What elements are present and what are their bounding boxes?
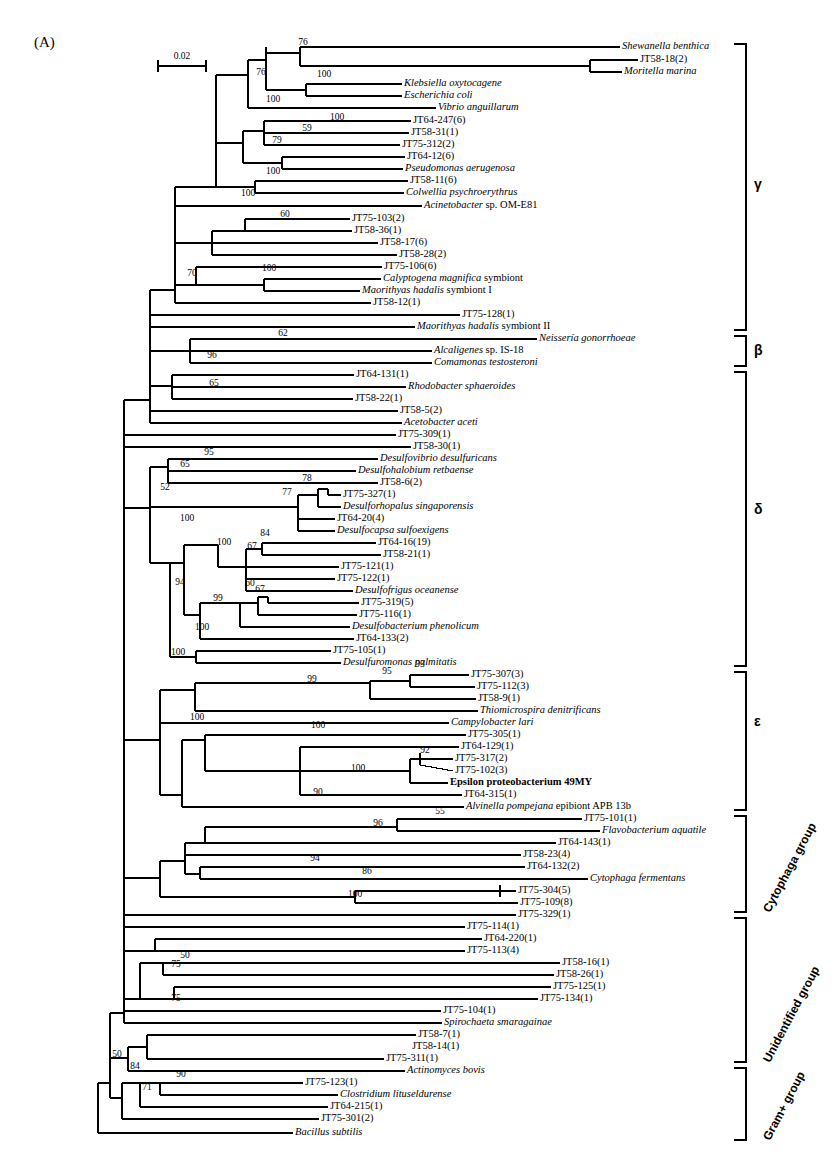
taxon-label: JT64-12(6) <box>407 150 455 162</box>
bootstrap-value: 86 <box>362 866 372 876</box>
bootstrap-value: 100 <box>266 166 281 176</box>
group-bracket-grampos <box>734 1068 746 1140</box>
bootstrap-value: 76 <box>298 37 308 47</box>
taxon-label: JT58-28(2) <box>399 248 447 260</box>
bootstrap-value: 100 <box>217 537 232 547</box>
taxon-label: Cytophaga fermentans <box>590 872 685 883</box>
bootstrap-value: 90 <box>176 1069 186 1079</box>
taxon-label: JT75-112(3) <box>477 680 530 692</box>
bootstrap-value: 84 <box>260 528 270 538</box>
taxon-label: Bacillus subtilis <box>295 1126 362 1137</box>
bootstrap-value: 96 <box>373 818 383 828</box>
bootstrap-value: 75 <box>171 959 181 969</box>
bootstrap-value: 50 <box>112 1049 122 1059</box>
taxon-label: Calyptogena magnifica symbiont <box>383 272 523 283</box>
taxon-label: JT64-132(2) <box>527 860 580 872</box>
bootstrap-value: 60 <box>280 209 290 219</box>
bootstrap-value: 94 <box>310 853 320 863</box>
scale-bar-label: 0.02 <box>174 51 191 61</box>
bootstrap-value: 93 <box>415 659 425 669</box>
bootstrap-value: 100 <box>348 889 363 899</box>
tip-label-group: Shewanella benthicaJT58-18(2)Moritella m… <box>295 40 709 1137</box>
phylogenetic-tree-svg: 0.02 <box>0 0 834 1154</box>
group-bracket-beta <box>734 336 746 366</box>
taxon-label: JT75-311(1) <box>386 1052 439 1064</box>
bootstrap-value: 95 <box>204 447 214 457</box>
group-bracket-gamma <box>734 44 746 330</box>
taxon-label: JT75-123(1) <box>305 1076 358 1088</box>
taxon-label: JT64-215(1) <box>330 1100 383 1112</box>
taxon-label: JT58-30(1) <box>413 440 461 452</box>
bootstrap-value: 100 <box>311 720 326 730</box>
taxon-label: JT64-16(19) <box>378 536 431 548</box>
bootstrap-value: 100 <box>241 188 256 198</box>
taxon-label: Actinomyces bovis <box>406 1064 485 1075</box>
bootstrap-value: 55 <box>435 806 445 816</box>
taxon-label: Desulfofrigus oceanense <box>354 584 459 595</box>
taxon-label: JT75-102(3) <box>455 764 508 776</box>
group-label-gamma: γ <box>754 176 762 192</box>
figure-canvas: (A) 0.02 <box>0 0 834 1154</box>
bootstrap-value: 52 <box>160 482 170 492</box>
bootstrap-value: 92 <box>420 745 430 755</box>
taxon-label: Moritella marina <box>623 65 697 76</box>
taxon-label: JT75-305(1) <box>468 728 521 740</box>
group-bracket-unidentified <box>734 918 746 1062</box>
taxon-label: Desulfuromonas palmitatis <box>342 656 457 667</box>
taxon-label: JT75-319(5) <box>361 596 414 608</box>
taxon-label: Alvinella pompejana epibiont APB 13b <box>465 800 631 811</box>
bootstrap-value: 65 <box>180 459 190 469</box>
taxon-label: Rhodobacter sphaeroides <box>407 380 515 391</box>
taxon-label: JT58-36(1) <box>354 224 402 236</box>
bootstrap-value: 96 <box>207 350 217 360</box>
group-bracket-delta <box>734 372 746 666</box>
bootstrap-value: 70 <box>187 268 197 278</box>
group-label-beta: β <box>754 342 763 358</box>
taxon-label: JT64-20(4) <box>337 512 385 524</box>
taxon-label: Alcaligenes sp. IS-18 <box>433 344 524 355</box>
taxon-label: JT58-11(6) <box>410 174 457 186</box>
bootstrap-value: 84 <box>130 1061 140 1071</box>
taxon-label: JT75-304(5) <box>518 884 571 896</box>
scale-bar <box>158 60 206 72</box>
taxon-label: JT58-23(4) <box>523 848 571 860</box>
taxon-label: Maorithyas hadalis symbiont I <box>361 284 492 295</box>
taxon-label: Flavobacterium aquatile <box>601 824 706 835</box>
taxon-label: Vibrio anguillarum <box>438 101 519 112</box>
group-bracket-group <box>734 44 746 1140</box>
bootstrap-value: 95 <box>382 666 392 676</box>
bootstrap-value: 99 <box>307 674 317 684</box>
taxon-label: JT58-9(1) <box>478 692 520 704</box>
taxon-label: Thiomicrospira denitrificans <box>480 704 601 715</box>
bootstrap-value: 76 <box>256 67 266 77</box>
bootstrap-value: 60 <box>245 578 255 588</box>
group-bracket-epsilon <box>734 672 746 810</box>
taxon-label: JT64-247(6) <box>413 114 466 126</box>
group-label-delta: δ <box>754 501 763 517</box>
taxon-label: Desulfovibrio desulfuricans <box>379 452 497 463</box>
taxon-label: JT75-125(1) <box>553 980 606 992</box>
taxon-label: JT58-5(2) <box>400 404 442 416</box>
taxon-label: Shewanella benthica <box>622 40 709 51</box>
bootstrap-value: 100 <box>195 622 210 632</box>
taxon-label: JT75-113(4) <box>467 944 520 956</box>
taxon-label: JT64-220(1) <box>484 932 537 944</box>
taxon-label: JT58-18(2) <box>640 53 688 65</box>
bootstrap-value: 65 <box>209 378 219 388</box>
taxon-label: JT75-327(1) <box>343 488 396 500</box>
taxon-label: JT75-317(2) <box>455 752 508 764</box>
taxon-label: JT58-12(1) <box>373 296 421 308</box>
taxon-label: JT75-309(1) <box>398 428 451 440</box>
taxon-label: JT58-7(1) <box>418 1028 460 1040</box>
taxon-label: JT75-116(1) <box>359 608 412 620</box>
bootstrap-value: 100 <box>266 94 281 104</box>
taxon-label: JT58-16(1) <box>562 956 610 968</box>
taxon-label: JT58-14(1) <box>412 1040 460 1052</box>
bootstrap-value: 62 <box>278 328 288 338</box>
taxon-label: Pseudomonas aerugenosa <box>404 162 515 173</box>
taxon-label: Klebsiella oxytocagene <box>403 77 502 88</box>
taxon-label: JT75-103(2) <box>352 212 405 224</box>
taxon-label: JT75-106(6) <box>384 260 437 272</box>
taxon-label: JT64-143(1) <box>558 836 611 848</box>
taxon-label: JT58-6(2) <box>380 476 422 488</box>
